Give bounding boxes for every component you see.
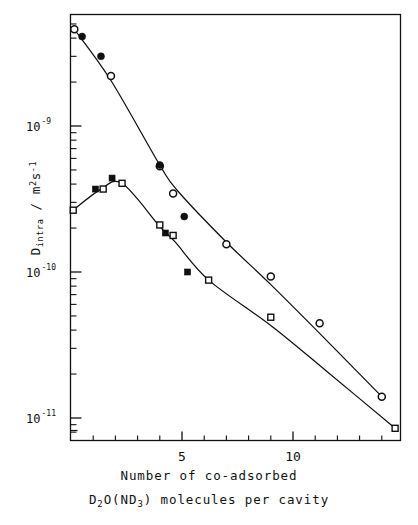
data-point-open-square [268, 314, 274, 320]
data-point-open-circle [170, 190, 177, 197]
fit-curves [73, 29, 395, 428]
series-open-squares [70, 180, 398, 431]
figure-container: 10-910-1010-11 510 Dintra / m2s-1 Number… [0, 0, 418, 525]
data-point-open-circle [71, 26, 78, 33]
data-point-open-circle [107, 73, 114, 80]
y-axis-unit-metre: m [28, 186, 43, 194]
data-point-filled-circle [79, 33, 86, 40]
data-point-open-circle [223, 241, 230, 248]
y-axis-unit-second-exponent: -1 [28, 161, 38, 172]
data-point-open-circle [316, 320, 323, 327]
y-tick-label: 10-11 [26, 409, 56, 426]
plot-border [71, 15, 401, 441]
data-point-open-square [392, 425, 398, 431]
data-point-open-square [170, 232, 176, 238]
data-point-filled-square [185, 269, 191, 275]
x-tick-label: 5 [178, 449, 186, 464]
data-point-filled-square [162, 230, 168, 236]
y-axis-title-symbol: D [28, 247, 43, 255]
data-point-filled-circle [97, 53, 104, 60]
scatter-plot: 10-910-1010-11 510 [0, 0, 418, 525]
series-open-circles [71, 26, 385, 400]
y-axis-title: Dintra / m2s-1 [25, 108, 49, 308]
data-point-open-square [157, 222, 163, 228]
caption-tail: ) molecules per cavity [144, 492, 329, 507]
svg-text:10: 10 [26, 412, 40, 426]
fit-curve-lower-curve [73, 181, 395, 428]
series-filled-squares [92, 175, 190, 275]
x-axis-caption-line-2: D2O(ND3) molecules per cavity [0, 492, 418, 509]
data-markers [70, 26, 398, 432]
data-point-open-square [206, 277, 212, 283]
data-point-open-square [70, 207, 76, 213]
data-point-open-square [100, 186, 106, 192]
data-point-filled-square [92, 186, 98, 192]
fit-curve-upper-curve [74, 29, 381, 396]
data-point-filled-square [109, 175, 115, 181]
data-point-open-circle [378, 393, 385, 400]
data-point-filled-circle [156, 162, 163, 169]
y-axis-unit-metre-exponent: 2 [28, 180, 38, 186]
y-axis-ticks [71, 24, 82, 432]
y-axis-title-subscript: intra [35, 219, 45, 248]
x-axis-ticks [71, 431, 382, 441]
x-axis-caption-line-1: Number of co-adsorbed [0, 468, 418, 483]
data-point-open-square [119, 180, 125, 186]
svg-text:-11: -11 [42, 409, 57, 418]
y-axis-unit-second: s [28, 172, 43, 180]
plot-frame [71, 15, 401, 441]
x-axis-tick-labels: 510 [178, 449, 301, 464]
x-tick-label: 10 [285, 449, 301, 464]
caption-ond: O(ND [104, 492, 138, 507]
data-point-filled-circle [181, 213, 188, 220]
y-axis-title-slash: / [28, 194, 43, 218]
data-point-open-circle [267, 273, 274, 280]
